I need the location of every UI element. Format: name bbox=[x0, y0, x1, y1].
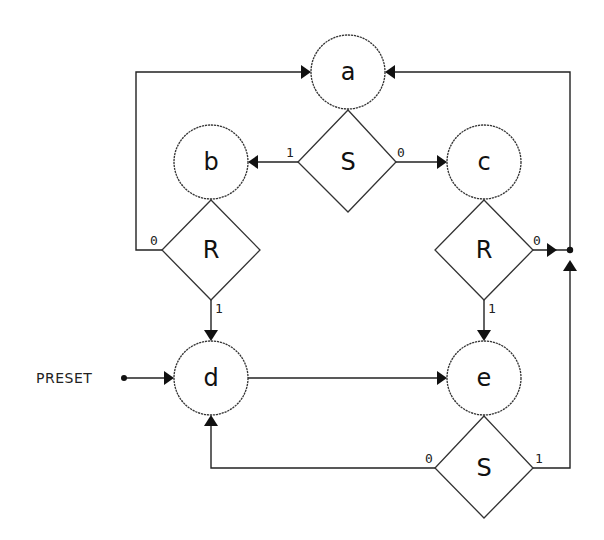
state-b-label: b bbox=[203, 148, 218, 176]
branch-label-sbottom-1: 1 bbox=[535, 451, 543, 466]
decision-s-bottom-label: S bbox=[476, 454, 491, 482]
state-c-label: c bbox=[477, 148, 490, 176]
arrowhead-into-c bbox=[437, 155, 447, 169]
branch-label-rleft-1: 1 bbox=[215, 301, 223, 316]
branch-label-sbottom-0: 0 bbox=[425, 451, 433, 466]
preset-input-dot bbox=[121, 375, 127, 381]
decision-s-top-label: S bbox=[340, 148, 355, 176]
decision-r-left-label: R bbox=[203, 236, 220, 264]
branch-label-stop-0: 0 bbox=[397, 145, 405, 160]
arrowhead-into-a-left bbox=[301, 65, 311, 79]
state-c[interactable]: c bbox=[447, 125, 521, 199]
arrowhead-rright0-junction bbox=[547, 243, 557, 257]
decision-r-left[interactable]: R bbox=[162, 200, 260, 300]
wire-sbottom1-to-junction bbox=[533, 262, 570, 468]
wire-sbottom0-to-d bbox=[211, 425, 435, 468]
arrowhead-into-e-top bbox=[477, 330, 491, 341]
arrowhead-sbottom1-junction bbox=[563, 260, 577, 271]
decision-s-bottom[interactable]: S bbox=[435, 416, 533, 518]
decision-r-right-label: R bbox=[476, 236, 493, 264]
decision-s-top[interactable]: S bbox=[298, 110, 396, 212]
arrowhead-into-a-right bbox=[385, 65, 395, 79]
arrowhead-into-d-top bbox=[204, 330, 218, 341]
arrowhead-into-b bbox=[248, 155, 258, 169]
preset-input-label: PRESET bbox=[36, 370, 92, 386]
decision-r-right[interactable]: R bbox=[435, 200, 533, 300]
state-a[interactable]: a bbox=[311, 35, 385, 109]
branch-label-stop-1: 1 bbox=[286, 145, 294, 160]
state-d[interactable]: d bbox=[174, 341, 248, 415]
state-b[interactable]: b bbox=[174, 125, 248, 199]
state-a-label: a bbox=[341, 58, 356, 86]
arrowhead-into-d-bottom bbox=[204, 415, 218, 426]
state-e[interactable]: e bbox=[447, 341, 521, 415]
branch-label-rleft-0: 0 bbox=[150, 233, 158, 248]
state-e-label: e bbox=[477, 364, 492, 392]
branch-label-rright-1: 1 bbox=[488, 301, 496, 316]
arrowhead-into-d-left bbox=[164, 371, 174, 385]
state-diagram: a b c d e S R R S 1 0 0 1 0 1 0 1 PRESET bbox=[0, 0, 604, 540]
state-d-label: d bbox=[203, 364, 218, 392]
junction-dot bbox=[567, 247, 573, 253]
arrowhead-into-e-left bbox=[437, 371, 447, 385]
branch-label-rright-0: 0 bbox=[533, 233, 541, 248]
